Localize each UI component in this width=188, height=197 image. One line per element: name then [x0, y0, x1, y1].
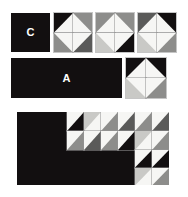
- triangle-cell: [126, 58, 146, 78]
- triangle-cell: [135, 150, 152, 168]
- triangle-cell: [138, 33, 157, 53]
- triangle-block-1: [54, 13, 92, 52]
- triangle-cell: [73, 33, 92, 53]
- triangle-cell: [54, 13, 73, 33]
- triangle-cell: [146, 58, 166, 78]
- triangle-cell: [152, 131, 169, 150]
- triangle-cell: [101, 112, 118, 131]
- composite-upper-band: [67, 112, 169, 150]
- label-panel-a: A: [11, 58, 122, 98]
- figure-canvas: C A: [0, 0, 188, 197]
- triangle-cell: [152, 112, 169, 131]
- label-panel-c: C: [11, 13, 50, 52]
- triangle-cell: [152, 168, 169, 186]
- composite-assembly: [17, 112, 169, 185]
- triangle-cell: [126, 78, 146, 98]
- triangle-cell: [118, 131, 135, 150]
- triangle-cell: [101, 131, 118, 150]
- triangle-cell: [135, 131, 152, 150]
- triangle-cell: [67, 112, 84, 131]
- triangle-cell: [96, 13, 115, 33]
- triangle-cell: [135, 168, 152, 186]
- composite-lower-corner: [135, 150, 169, 185]
- triangle-cell: [146, 78, 166, 98]
- triangle-cell: [54, 33, 73, 53]
- triangle-cell: [73, 13, 92, 33]
- triangle-block-3: [138, 13, 176, 52]
- triangle-block-2: [96, 13, 134, 52]
- triangle-cell: [84, 131, 101, 150]
- triangle-block-4: [126, 58, 166, 98]
- triangle-cell: [138, 13, 157, 33]
- panel-c-label: C: [26, 27, 34, 38]
- panel-a-label: A: [62, 73, 70, 84]
- triangle-cell: [96, 33, 115, 53]
- triangle-cell: [118, 112, 135, 131]
- triangle-cell: [115, 13, 134, 33]
- triangle-cell: [67, 131, 84, 150]
- triangle-cell: [157, 33, 176, 53]
- triangle-cell: [135, 112, 152, 131]
- triangle-cell: [84, 112, 101, 131]
- triangle-cell: [152, 150, 169, 168]
- triangle-cell: [157, 13, 176, 33]
- triangle-cell: [115, 33, 134, 53]
